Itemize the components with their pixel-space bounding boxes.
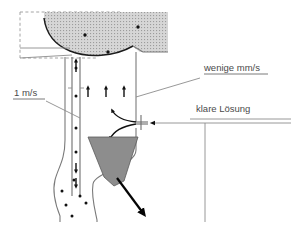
clarifier-diagram: wenige mm/s 1 m/s klare Lösung <box>0 0 291 228</box>
hopper-particles <box>61 179 88 218</box>
label-1-m-s: 1 m/s <box>13 87 45 99</box>
left-launder-lines <box>20 48 72 58</box>
label-klare-loesung: klare Lösung <box>196 103 250 114</box>
right-vertical-line <box>190 119 291 222</box>
leader-lines <box>46 78 200 118</box>
discharge-arrow <box>117 178 143 213</box>
label-klare-loesung-text: klare Lösung <box>196 103 250 114</box>
draft-tube-particle <box>75 151 78 154</box>
upflow-arrows <box>88 87 124 97</box>
draft-tube-particle <box>75 95 78 98</box>
recirculation-curves <box>110 110 136 139</box>
blanket-particle <box>83 33 86 36</box>
label-wenige-mm-s-text: wenige mm/s <box>203 62 260 73</box>
sludge-blanket <box>44 12 168 56</box>
blanket-particle <box>106 50 109 53</box>
blanket-particle <box>136 25 139 28</box>
draft-tube-particle <box>75 127 78 130</box>
draft-tube <box>68 57 84 196</box>
label-wenige-mm-s: wenige mm/s <box>203 62 268 74</box>
label-1-m-s-text: 1 m/s <box>14 87 37 98</box>
sludge-cone <box>88 137 138 186</box>
inlet-nozzle <box>136 115 291 130</box>
diagram-canvas: wenige mm/s 1 m/s klare Lösung <box>0 0 291 228</box>
